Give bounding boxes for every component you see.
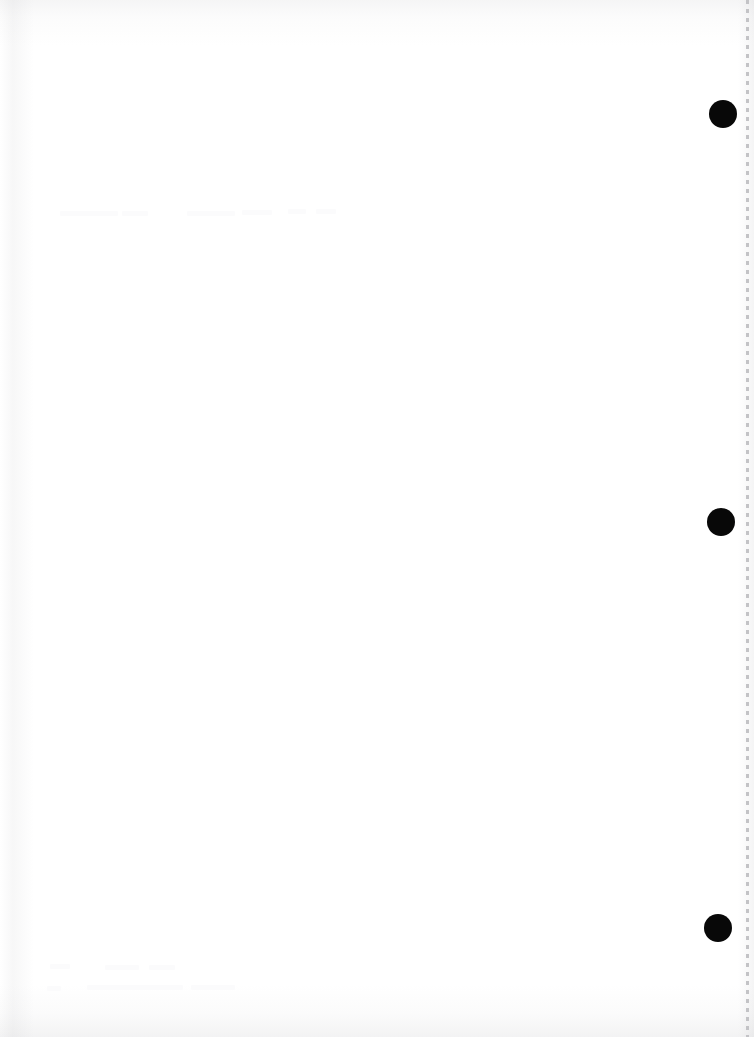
scanned-page [0,0,754,1037]
show-through-mark [191,985,235,990]
show-through-mark [187,211,235,216]
show-through-mark [242,210,272,215]
show-through-mark [47,986,61,991]
show-through-mark [50,964,70,969]
punch-hole-bottom [704,914,732,942]
show-through-mark [60,211,118,216]
show-through-mark [149,965,175,970]
show-through-mark [87,985,183,990]
show-through-mark [105,965,139,970]
show-through-mark [122,211,148,216]
punch-hole-top [709,100,737,128]
punch-hole-middle [707,508,735,536]
show-through-mark [316,209,336,214]
show-through-mark [288,209,306,214]
paper-surface [0,0,754,1037]
perforation-edge [746,0,749,1037]
